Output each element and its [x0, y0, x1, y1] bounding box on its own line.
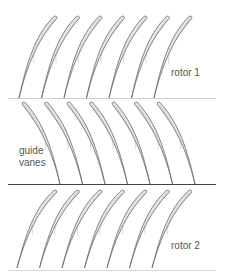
- turbine-blade-diagram: [0, 0, 227, 278]
- rotor-blade-1: [19, 16, 57, 98]
- rotor-2-label: rotor 2: [171, 240, 200, 252]
- rotor-1-row: [19, 16, 192, 98]
- guide-vane-7: [157, 102, 195, 184]
- guide-vanes-label: guide vanes: [19, 145, 46, 169]
- rotor-blade-1: [17, 190, 57, 268]
- rotor-1-label: rotor 1: [171, 67, 200, 79]
- guide-vanes-row: [22, 102, 195, 184]
- guide-vanes-label-line-1: guide: [19, 145, 46, 157]
- guide-vanes-label-line-2: vanes: [19, 157, 46, 169]
- rotor-2-row: [17, 190, 192, 268]
- blade-rows: [17, 16, 195, 268]
